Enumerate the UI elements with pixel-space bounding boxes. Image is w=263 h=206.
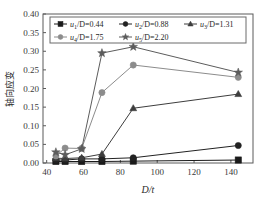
series-line [56, 47, 238, 155]
x-tick-label: 140 [224, 167, 238, 177]
data-point-marker [130, 62, 136, 68]
data-point-marker [235, 157, 241, 163]
chart-legend: u1/D=0.44u2/D=0.88u3/D=1.31u4/D=1.75u5/D… [50, 17, 246, 43]
legend-marker [58, 35, 63, 40]
x-tick-label: 60 [79, 167, 89, 177]
y-tick-label: 0.25 [23, 65, 39, 75]
y-axis-title: 轴向应变 [4, 71, 15, 107]
y-tick-label: 0.00 [23, 158, 39, 168]
data-point-marker [99, 89, 105, 95]
y-tick-label: 0.20 [23, 84, 39, 94]
x-axis-title: D/t [141, 184, 155, 195]
data-point-marker [235, 91, 242, 97]
chart-figure: 0.000.050.100.150.200.250.300.350.40 406… [0, 0, 263, 206]
y-tick-label: 0.30 [23, 46, 39, 56]
legend-marker [58, 22, 63, 27]
y-tick-label: 0.05 [23, 139, 39, 149]
x-tick-label: 100 [150, 167, 164, 177]
x-tick-label: 40 [42, 167, 52, 177]
y-tick-label: 0.35 [23, 28, 39, 38]
y-tick-label: 0.40 [23, 9, 39, 19]
data-point-marker [235, 142, 241, 148]
legend-marker [123, 22, 128, 27]
y-tick-label: 0.15 [23, 102, 39, 112]
y-tick-label: 0.10 [23, 121, 39, 131]
axial-strain-vs-dt-chart: 0.000.050.100.150.200.250.300.350.40 406… [0, 0, 263, 206]
data-point-marker [129, 42, 138, 50]
series-5 [52, 42, 243, 158]
data-point-marker [130, 155, 136, 161]
series-4 [53, 62, 242, 159]
x-tick-label: 120 [187, 167, 201, 177]
x-tick-label: 80 [116, 167, 126, 177]
data-series-layer [52, 42, 243, 164]
